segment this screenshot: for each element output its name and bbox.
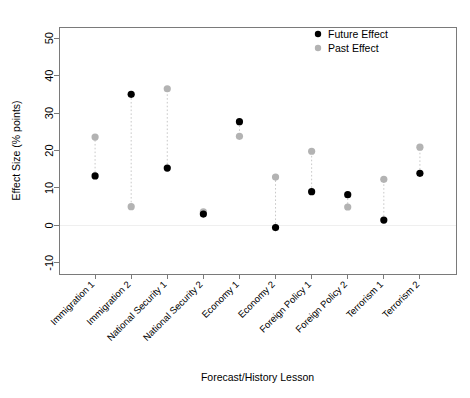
chart-figure: -1001020304050Effect Size (% points)Immi… [0,0,470,398]
y-axis-tick-label: 40 [43,70,55,82]
data-point [308,188,315,195]
x-axis-tick-label: Terrorism 1 [344,279,385,320]
x-axis-tick-label: Economy 1 [199,279,240,320]
y-axis-tick-label: -10 [43,255,55,271]
data-point [272,173,279,180]
x-axis-title: Forecast/History Lesson [201,371,314,383]
data-point [128,203,135,210]
data-point [164,85,171,92]
y-axis-tick-label: 10 [43,182,55,194]
data-point [380,176,387,183]
data-point [164,164,171,171]
data-point [416,170,423,177]
y-axis-tick-label: 50 [43,32,55,44]
legend-label: Future Effect [328,28,388,40]
y-axis-title: Effect Size (% points) [10,100,22,200]
data-point [344,203,351,210]
y-axis-tick-label: 20 [43,144,55,156]
data-point [380,217,387,224]
plot-frame [59,27,456,274]
data-point [308,148,315,155]
data-point [236,118,243,125]
data-point [416,144,423,151]
x-axis-tick-label: Terrorism 2 [380,279,421,320]
legend-marker [315,45,321,51]
data-point [344,191,351,198]
legend-label: Past Effect [328,42,379,54]
data-point [91,172,98,179]
y-axis-tick-label: 30 [43,107,55,119]
legend-marker [315,31,321,37]
data-point [200,211,207,218]
data-point [128,91,135,98]
effect-size-dot-plot: -1001020304050Effect Size (% points)Immi… [0,0,470,398]
data-point [272,224,279,231]
y-axis-tick-label: 0 [43,222,55,228]
data-point [236,133,243,140]
data-point [91,133,98,140]
